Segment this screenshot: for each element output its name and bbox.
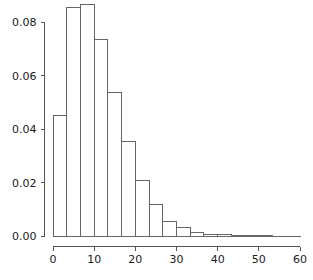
histogram-bars: [53, 5, 300, 237]
x-tick-label: 50: [252, 253, 266, 266]
x-axis: 0102030405060: [50, 247, 308, 266]
y-tick-label: 0.02: [12, 177, 37, 190]
y-tick-label: 0.08: [12, 16, 37, 29]
y-tick-label: 0.00: [12, 230, 37, 243]
histogram-bar: [53, 116, 67, 236]
histogram-bar: [122, 141, 136, 236]
y-axis: 0.000.020.040.060.08: [12, 16, 45, 243]
histogram-bar: [135, 180, 149, 236]
histogram-bar: [67, 7, 81, 236]
histogram-bar: [80, 5, 94, 236]
histogram-plot-area: 0.000.020.040.060.08 0102030405060: [0, 0, 313, 280]
histogram-figure: 0.000.020.040.060.08 0102030405060: [0, 0, 313, 280]
histogram-bar: [94, 40, 108, 236]
histogram-bar: [108, 93, 122, 236]
x-tick-label: 30: [170, 253, 184, 266]
histogram-bar: [163, 221, 177, 236]
histogram-bar: [149, 205, 163, 236]
x-tick-label: 10: [87, 253, 101, 266]
x-tick-label: 40: [211, 253, 225, 266]
x-tick-label: 0: [50, 253, 57, 266]
histogram-bar: [218, 235, 232, 236]
histogram-bar: [231, 235, 245, 236]
histogram-bar: [177, 228, 191, 236]
histogram-bar: [204, 234, 218, 236]
x-tick-label: 20: [128, 253, 142, 266]
histogram-bar: [190, 233, 204, 236]
x-tick-label: 60: [293, 253, 307, 266]
y-tick-label: 0.04: [12, 123, 37, 136]
y-tick-label: 0.06: [12, 70, 37, 83]
